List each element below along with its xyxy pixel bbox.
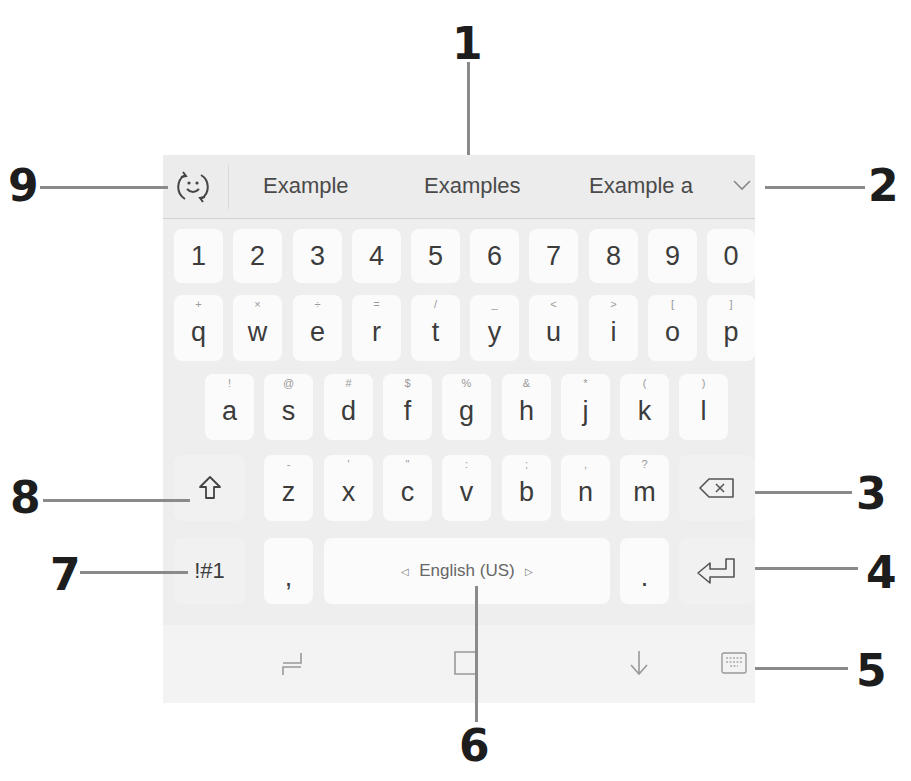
callout-3: 3 [856,472,887,516]
key-n[interactable]: ,n [561,455,610,521]
key-p[interactable]: ]p [707,295,755,361]
enter-icon [696,556,738,586]
space-bar[interactable]: ◁ English (US) ▷ [324,538,610,604]
callout-4: 4 [866,551,897,595]
key-h[interactable]: &h [502,374,551,440]
suggestion-center[interactable]: Examples [424,173,521,199]
key-1[interactable]: 1 [174,229,223,283]
callout-5: 5 [856,649,887,693]
key-f[interactable]: $f [383,374,432,440]
callout-8: 8 [10,476,41,520]
key-a[interactable]: !a [205,374,254,440]
period-key[interactable]: . [620,538,669,604]
callout-1: 1 [452,22,483,66]
key-6[interactable]: 6 [470,229,519,283]
clipboard-button[interactable] [453,649,477,681]
comma-key[interactable]: , [264,538,313,604]
key-e[interactable]: ÷e [293,295,342,361]
keyboard-switch-button[interactable] [721,652,747,678]
callout-7: 7 [50,553,81,597]
key-v[interactable]: :v [442,455,491,521]
callout-2: 2 [868,164,899,208]
chevron-down-icon [731,175,753,195]
keyboard: Example Examples Example a 1 2 3 4 5 6 7… [163,155,755,703]
key-2[interactable]: 2 [233,229,282,283]
callout-2-line [765,186,865,189]
key-j[interactable]: *j [561,374,610,440]
key-7[interactable]: 7 [529,229,578,283]
key-q[interactable]: +q [174,295,223,361]
backspace-icon [699,477,735,499]
suggestion-right[interactable]: Example a [589,173,693,199]
key-k[interactable]: (k [620,374,669,440]
callout-6-line [475,586,478,722]
enter-key[interactable] [679,538,755,604]
shift-arrow-icon [198,475,222,501]
callout-8-line [43,499,190,502]
callout-5-line [748,667,848,670]
clipboard-icon [453,649,477,677]
keyboard-toolbar [163,625,755,703]
suggestion-divider [228,165,229,209]
expand-suggestions-button[interactable] [731,175,753,195]
key-i[interactable]: >i [589,295,638,361]
suggestion-bar: Example Examples Example a [163,155,755,219]
hide-keyboard-button[interactable] [628,649,650,681]
space-bar-language: English (US) [419,561,514,581]
key-y[interactable]: _y [470,295,519,361]
emoji-button[interactable] [173,169,213,205]
backspace-key[interactable] [679,455,755,521]
key-8[interactable]: 8 [589,229,638,283]
key-r[interactable]: =r [352,295,401,361]
key-0[interactable]: 0 [707,229,755,283]
key-g[interactable]: %g [442,374,491,440]
key-w[interactable]: ×w [233,295,282,361]
key-o[interactable]: [o [648,295,697,361]
language-prev-icon: ◁ [401,566,409,577]
language-next-icon: ▷ [525,566,533,577]
callout-6: 6 [459,724,490,768]
callout-3-line [744,491,852,494]
key-l[interactable]: )l [679,374,728,440]
key-c[interactable]: "c [383,455,432,521]
keyboard-switch-icon [721,652,747,674]
key-9[interactable]: 9 [648,229,697,283]
callout-4-line [744,567,858,570]
key-4[interactable]: 4 [352,229,401,283]
callout-7-line [80,571,188,574]
key-t[interactable]: /t [411,295,460,361]
key-u[interactable]: <u [529,295,578,361]
key-5[interactable]: 5 [411,229,460,283]
key-x[interactable]: 'x [324,455,373,521]
callout-9-line [40,186,168,189]
shift-key[interactable] [174,455,245,521]
emoji-refresh-icon [173,169,213,205]
cursor-move-button[interactable] [281,651,303,681]
hide-keyboard-icon [628,649,650,677]
key-m[interactable]: ?m [620,455,669,521]
key-z[interactable]: -z [264,455,313,521]
key-d[interactable]: #d [324,374,373,440]
key-3[interactable]: 3 [293,229,342,283]
callout-9: 9 [8,164,39,208]
suggestion-left[interactable]: Example [263,173,349,199]
cursor-move-icon [281,651,303,677]
key-s[interactable]: @s [264,374,313,440]
key-b[interactable]: ;b [502,455,551,521]
